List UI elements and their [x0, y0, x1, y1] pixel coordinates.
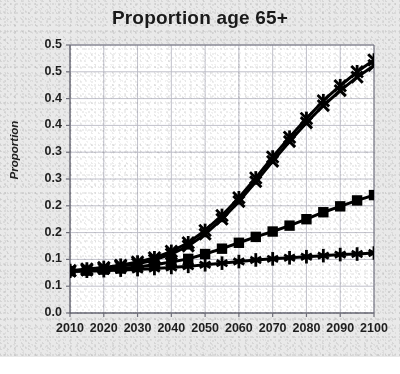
- marker-series-middle-square-14: [301, 214, 311, 224]
- marker-series-middle-square-16: [335, 201, 345, 211]
- y-axis-title: Proportion: [8, 115, 20, 185]
- marker-series-middle-square-18: [369, 190, 379, 200]
- chart-title: Proportion age 65+: [0, 7, 400, 29]
- bottom-white-strip: [0, 357, 400, 374]
- y-tick-label-4: 0.3: [22, 144, 62, 158]
- chart-figure: Proportion age 65+ Proportion 0.50.50.40…: [0, 0, 400, 374]
- marker-series-middle-square-13: [284, 220, 294, 230]
- y-tick-label-10: 0.0: [22, 305, 62, 319]
- marker-series-middle-square-11: [251, 232, 261, 242]
- marker-series-middle-square-10: [234, 238, 244, 248]
- y-tick-label-9: 0.1: [22, 278, 62, 292]
- y-tick-label-2: 0.4: [22, 91, 62, 105]
- marker-series-middle-square-9: [217, 243, 227, 253]
- y-tick-label-5: 0.3: [22, 171, 62, 185]
- y-tick-label-8: 0.1: [22, 251, 62, 265]
- marker-series-middle-square-17: [352, 195, 362, 205]
- x-tick-label-9: 2100: [350, 321, 398, 335]
- y-tick-label-7: 0.2: [22, 225, 62, 239]
- marker-series-middle-square-15: [318, 207, 328, 217]
- y-tick-label-3: 0.4: [22, 117, 62, 131]
- marker-series-middle-square-12: [267, 226, 277, 236]
- y-tick-label-0: 0.5: [22, 37, 62, 51]
- marker-series-middle-square-8: [200, 249, 210, 259]
- y-tick-label-1: 0.5: [22, 64, 62, 78]
- y-tick-label-6: 0.2: [22, 198, 62, 212]
